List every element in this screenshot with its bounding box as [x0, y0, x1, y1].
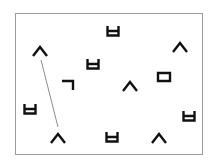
jamo-siot-icon: ㅅ	[173, 43, 187, 52]
jamo-bieup-icon: ㅂ	[88, 59, 99, 69]
jamo-bieup-icon: ㅂ	[107, 132, 118, 142]
connector-layer	[41, 60, 58, 127]
symbol-layer: ㅂㅅㅅㅂㄱㅅㅁㅂㅂㅅㅂㅅ	[25, 26, 195, 143]
jamo-giyeok-icon: ㄱ	[62, 81, 73, 90]
diagram-canvas: ㅂㅅㅅㅂㄱㅅㅁㅂㅂㅅㅂㅅ	[0, 0, 213, 164]
jamo-bieup-icon: ㅂ	[108, 26, 119, 36]
jamo-siot-icon: ㅅ	[123, 82, 137, 91]
jamo-mieum-icon: ㅁ	[158, 73, 170, 81]
jamo-siot-icon: ㅅ	[51, 134, 65, 143]
connector-line	[41, 60, 58, 127]
jamo-bieup-icon: ㅂ	[25, 104, 36, 114]
jamo-siot-icon: ㅅ	[152, 134, 166, 143]
jamo-bieup-icon: ㅂ	[184, 111, 195, 121]
jamo-siot-icon: ㅅ	[33, 47, 47, 56]
